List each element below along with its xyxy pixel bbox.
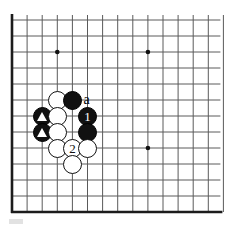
move-number-label: 1 xyxy=(84,110,91,123)
white-stone[interactable] xyxy=(78,139,97,158)
footer-artifact xyxy=(9,219,23,224)
move-number-label: 2 xyxy=(69,142,76,155)
triangle-marker-icon xyxy=(37,112,47,121)
triangle-marker-icon xyxy=(37,128,47,137)
point-label-a: a xyxy=(84,93,90,107)
white-stone[interactable] xyxy=(63,155,82,174)
go-stone-layer: 12a xyxy=(0,0,235,230)
black-stone[interactable] xyxy=(63,91,82,110)
go-board-figure: 12a xyxy=(0,0,235,230)
